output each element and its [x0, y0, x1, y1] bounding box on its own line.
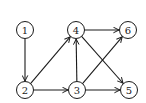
node-3: 3: [69, 82, 86, 99]
node-5: 5: [121, 82, 138, 99]
node-label: 5: [126, 85, 132, 96]
node-2: 2: [17, 82, 34, 99]
edge-3-to-4: [76, 39, 77, 82]
node-label: 3: [74, 85, 80, 96]
edges-layer: [25, 30, 123, 90]
node-6: 6: [120, 22, 137, 39]
node-label: 1: [22, 25, 28, 36]
directed-graph: 123456: [0, 0, 146, 103]
edge-2-to-4: [31, 37, 71, 84]
node-label: 4: [73, 25, 79, 36]
node-label: 6: [125, 25, 131, 36]
node-1: 1: [17, 22, 34, 39]
node-label: 2: [22, 85, 28, 96]
node-4: 4: [68, 22, 85, 39]
